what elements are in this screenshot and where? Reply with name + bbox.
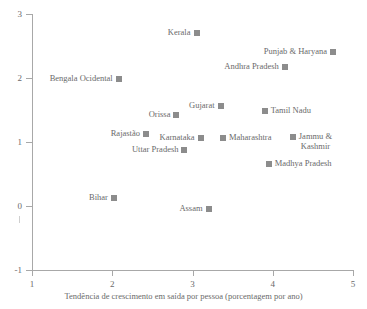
data-point-marker[interactable] xyxy=(266,161,272,167)
data-point-label: Kerala xyxy=(168,28,191,38)
data-point-marker[interactable] xyxy=(220,135,226,141)
data-point-label: Madhya Pradesh xyxy=(275,159,332,169)
x-tick-label: 2 xyxy=(102,280,122,289)
data-point-marker[interactable] xyxy=(181,147,187,153)
data-point-label: Maharashtra xyxy=(229,133,271,143)
data-point-marker[interactable] xyxy=(173,112,179,118)
x-tick-mark xyxy=(353,270,354,276)
data-point-marker[interactable] xyxy=(218,103,224,109)
y-tick-label: 0 xyxy=(2,202,22,211)
y-tick-mark xyxy=(26,142,32,143)
data-point-marker[interactable] xyxy=(111,195,117,201)
x-tick-label: 1 xyxy=(22,280,42,289)
y-tick-mark xyxy=(26,14,32,15)
data-point-label: Uttar Pradesh xyxy=(132,145,179,155)
data-point-marker[interactable] xyxy=(282,64,288,70)
x-tick-mark xyxy=(32,270,33,276)
x-tick-mark xyxy=(273,270,274,276)
data-point-label: Rajastão xyxy=(111,129,140,139)
y-tick-label: 3 xyxy=(2,10,22,19)
x-axis-title: Tendência de crescimento em saída por pe… xyxy=(0,292,367,301)
data-point-label: Bihar xyxy=(89,193,108,203)
stray-axis-mark xyxy=(19,216,20,223)
data-point-label: Assam xyxy=(179,204,202,214)
data-point-marker[interactable] xyxy=(330,49,336,55)
x-tick-mark xyxy=(193,270,194,276)
y-tick-label: -1 xyxy=(2,266,22,275)
data-point-marker[interactable] xyxy=(198,135,204,141)
data-point-marker[interactable] xyxy=(206,206,212,212)
data-point-label: Bengala Ocidental xyxy=(50,74,113,84)
data-point-marker[interactable] xyxy=(143,131,149,137)
x-tick-label: 4 xyxy=(263,280,283,289)
data-point-label: Gujarat xyxy=(189,101,215,111)
data-point-label: Jammu &Kashmir xyxy=(299,132,332,152)
y-tick-mark xyxy=(26,78,32,79)
y-tick-label: 1 xyxy=(2,138,22,147)
data-point-label: Punjab & Haryana xyxy=(264,47,327,57)
y-tick-mark xyxy=(26,206,32,207)
y-axis-line xyxy=(32,14,33,270)
y-tick-label: 2 xyxy=(2,74,22,83)
data-point-marker[interactable] xyxy=(262,108,268,114)
scatter-plot-figure: 3210-1 12345 KeralaPunjab & HaryanaAndhr… xyxy=(0,0,367,309)
data-point-label: Tamil Nadu xyxy=(271,106,311,116)
x-tick-mark xyxy=(112,270,113,276)
data-point-label: Andhra Pradesh xyxy=(224,62,279,72)
x-tick-label: 3 xyxy=(183,280,203,289)
data-point-marker[interactable] xyxy=(116,76,122,82)
data-point-label: Orissa xyxy=(149,110,171,120)
data-point-marker[interactable] xyxy=(194,30,200,36)
data-point-label: Karnataka xyxy=(160,133,195,143)
x-tick-label: 5 xyxy=(343,280,363,289)
data-point-marker[interactable] xyxy=(290,134,296,140)
